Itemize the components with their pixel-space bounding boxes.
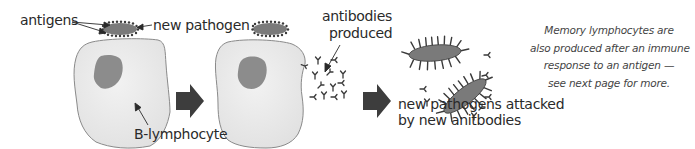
immune-response-diagram: antigens new pathogen B-lymphocyte antib… <box>0 0 695 149</box>
pathogen-body <box>253 23 287 35</box>
new-pathogen-label: new pathogen <box>153 18 250 33</box>
antibodies-label-line2: produced <box>329 26 392 41</box>
b-lymphocyte-cell-2 <box>215 40 305 148</box>
note-line-3: response to an antigen — <box>530 57 688 75</box>
pathogen-2 <box>251 21 289 38</box>
antibodies-cluster <box>301 57 347 100</box>
memory-lymphocytes-note: Memory lymphocytes are also produced aft… <box>530 22 688 92</box>
antibodies-label-line1: antibodies <box>322 9 392 24</box>
note-line-2: also produced after an immune <box>530 40 688 58</box>
note-line-1: Memory lymphocytes are <box>530 22 688 40</box>
antibodies-pointer-arrow <box>325 45 340 72</box>
attacked-label-line1: new pathogens attacked <box>398 97 564 112</box>
flow-arrow-2 <box>363 84 391 118</box>
stage-2 <box>215 21 346 148</box>
b-lymphocyte-label: B-lymphocyte <box>134 127 227 142</box>
attacked-pathogen-1 <box>401 34 471 72</box>
flow-arrow-1 <box>176 84 204 118</box>
new-pathogen-pointer-arrow <box>137 24 152 30</box>
attacked-label-line2: by new anitbodies <box>398 113 521 128</box>
note-line-4: see next page for more. <box>530 75 688 93</box>
antigens-label: antigens <box>20 13 78 28</box>
